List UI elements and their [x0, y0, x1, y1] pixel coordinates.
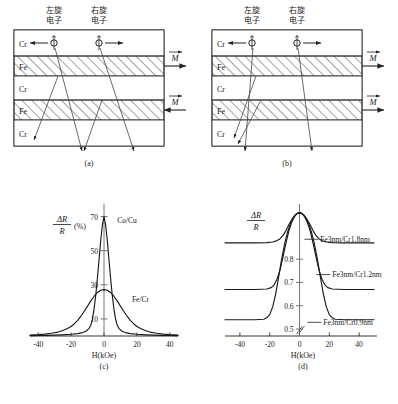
- chart-d-x-ticklabel-0: -40: [235, 340, 245, 349]
- chart-c-series-label-0: Co/Cu: [117, 216, 137, 225]
- chart-d-y-ticklabel-3: 0.8: [284, 255, 294, 264]
- panel-b-layer-label-1: Fe: [217, 63, 225, 72]
- chart-d-x-axis-label: H(kOe): [291, 351, 316, 360]
- panel-a-caption: (a): [85, 159, 94, 168]
- chart-c-x-ticklabel-4: 40: [166, 340, 174, 349]
- chart-d-y-ticklabel-0: 0.5: [284, 325, 294, 334]
- panel-b-left-spin-label-2: 电子: [244, 15, 260, 25]
- chart-d-y-label-denominator: R: [252, 222, 259, 232]
- panel-b-layer-fe-1: [212, 56, 362, 76]
- panel-a-magnetization-label-1: M: [170, 97, 179, 107]
- panel-b-layer-label-4: Cr: [217, 130, 225, 139]
- chart-d-x-ticklabel-4: 40: [355, 340, 363, 349]
- chart-d-caption: (d): [298, 362, 308, 371]
- panel-b-magnetization-label-1: M: [368, 97, 377, 107]
- panel-b-right-spin-label-2: 电子: [289, 15, 305, 25]
- panel-b-layer-cr-4: [212, 120, 362, 146]
- panel-a-magnetization-label-0: M: [170, 53, 179, 63]
- chart-c-x-ticklabel-0: -40: [33, 340, 43, 349]
- panel-a-layer-label-1: Fe: [19, 63, 27, 72]
- figure-canvas: CrFeCrFeCr左旋电子右旋电子MM(a)CrFeCrFeCr左旋电子右旋电…: [0, 0, 398, 404]
- panel-b-left-spin-label-1: 左旋: [244, 5, 260, 15]
- chart-c-x-ticklabel-1: -20: [66, 340, 76, 349]
- chart-d-x-ticklabel-1: -20: [265, 340, 275, 349]
- panel-b-layer-label-2: Cr: [217, 85, 225, 94]
- panel-b-layer-label-0: Cr: [217, 40, 225, 49]
- chart-d-series-label-0: Fe3nm/Cr1.8nm: [320, 235, 370, 244]
- chart-d-x-ticklabel-2: 0: [298, 340, 302, 349]
- panel-a-right-spin-label-2: 电子: [91, 15, 107, 25]
- panel-a-layer-fe-1: [14, 56, 164, 76]
- panel-a-layer-cr-2: [14, 76, 164, 100]
- chart-c-x-axis-label: H(kOe): [92, 351, 117, 360]
- chart-c-series-label-1: Fe/Cr: [132, 295, 150, 304]
- chart-c-x-ticklabel-2: 0: [102, 340, 106, 349]
- panel-a-layer-label-3: Fe: [19, 107, 27, 116]
- panel-b-right-spin-label-1: 右旋: [289, 5, 305, 15]
- chart-d-y-ticklabel-2: 0.7: [284, 278, 294, 287]
- panel-a-layer-label-4: Cr: [19, 130, 27, 139]
- figure-root: CrFeCrFeCr左旋电子右旋电子MM(a)CrFeCrFeCr左旋电子右旋电…: [0, 0, 398, 404]
- chart-d-x-ticklabel-3: 20: [326, 340, 334, 349]
- panel-b-caption: (b): [282, 159, 292, 168]
- chart-c-y-label-numerator: ΔR: [56, 214, 68, 224]
- panel-a-layer-fe-3: [14, 100, 164, 120]
- chart-c-caption: (c): [100, 362, 109, 371]
- chart-c-y-ticklabel-2: 50: [91, 247, 99, 256]
- panel-a-left-spin-label-2: 电子: [46, 15, 62, 25]
- panel-b-layer-cr-2: [212, 76, 362, 100]
- panel-a-left-spin-label-1: 左旋: [46, 5, 62, 15]
- panel-a-layer-label-2: Cr: [19, 85, 27, 94]
- chart-c-y-label-denominator: R: [58, 226, 65, 236]
- chart-c-y-ticklabel-3: 70: [91, 213, 99, 222]
- chart-d-y-label-numerator: ΔR: [250, 210, 262, 220]
- panel-a-layer-label-0: Cr: [19, 40, 27, 49]
- chart-d-series-label-2: Fe3nm/Cr0.9nm: [323, 318, 373, 327]
- panel-b-layer-fe-3: [212, 100, 362, 120]
- panel-a-right-spin-label-1: 右旋: [91, 5, 107, 15]
- chart-d-y-ticklabel-1: 0.6: [284, 302, 294, 311]
- chart-c-y-label-unit: (%): [74, 222, 86, 231]
- panel-b-layer-label-3: Fe: [217, 107, 225, 116]
- chart-d-series-label-1: Fe3nm/Cr1.2nm: [332, 270, 382, 279]
- panel-b-magnetization-label-0: M: [368, 53, 377, 63]
- chart-c-x-ticklabel-3: 20: [133, 340, 141, 349]
